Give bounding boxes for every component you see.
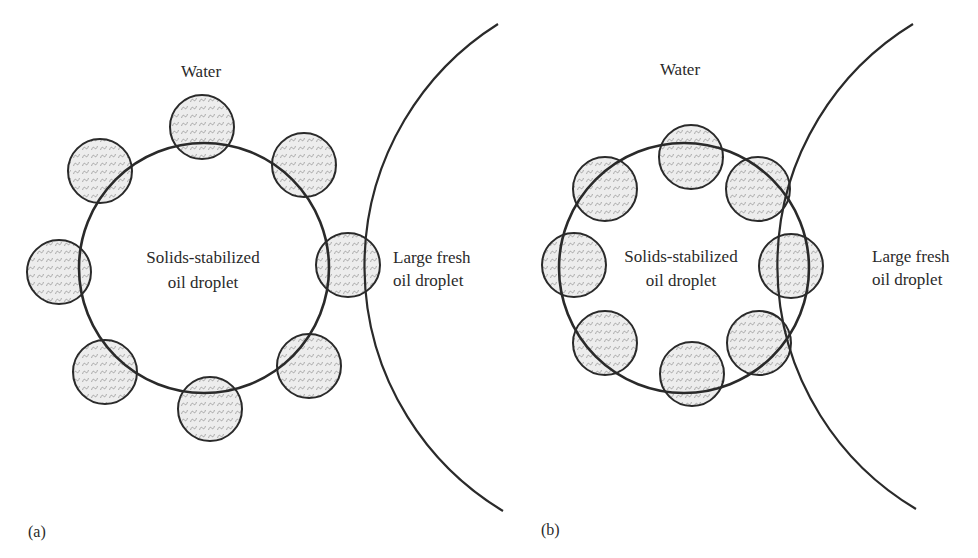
solid-particle [277, 334, 341, 398]
solid-particle [727, 311, 791, 375]
panel-label-a: (a) [28, 523, 46, 541]
large-fresh-droplet-arc [364, 24, 503, 511]
small-droplet-label-line2: oil droplet [168, 273, 239, 292]
panel-b: Water Solids-stabilized oil droplet Larg… [541, 24, 950, 539]
small-droplet-label-line1: Solids-stabilized [146, 248, 260, 267]
solid-particle [272, 133, 336, 197]
solid-particle [170, 95, 234, 159]
small-droplet-label-line1: Solids-stabilized [624, 247, 738, 266]
solids-stabilized-droplet [79, 143, 329, 393]
water-label: Water [660, 60, 700, 79]
solid-particle [573, 157, 637, 221]
solid-particle [660, 342, 724, 406]
solid-particle [759, 234, 823, 298]
panel-label-b: (b) [541, 521, 560, 539]
solid-particle [659, 125, 723, 189]
solid-particle [542, 233, 606, 297]
small-droplet-label-line2: oil droplet [646, 271, 717, 290]
water-label: Water [181, 62, 221, 81]
solid-particle [73, 340, 137, 404]
large-droplet-label-line2: oil droplet [393, 271, 464, 290]
solid-particle [178, 377, 242, 441]
large-droplet-label-line2: oil droplet [872, 270, 943, 289]
emulsion-coalescence-diagram: Water Solids-stabilized oil droplet Larg… [0, 0, 978, 558]
large-droplet-label-line1: Large fresh [393, 248, 471, 267]
panel-a: Water Solids-stabilized oil droplet Larg… [27, 24, 503, 541]
large-droplet-label-line1: Large fresh [872, 247, 950, 266]
solid-particle [68, 139, 132, 203]
